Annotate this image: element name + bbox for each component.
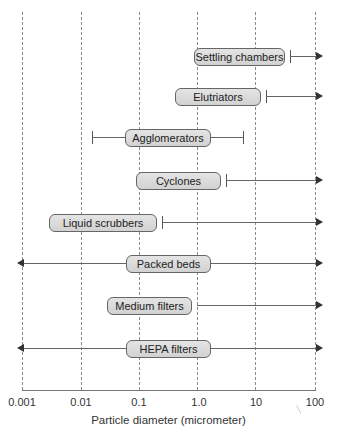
range-label-box: Liquid scrubbers bbox=[49, 214, 157, 232]
x-tick-label: 0.1 bbox=[131, 396, 146, 408]
gridline-0.001 bbox=[22, 12, 23, 390]
x-tick-label: 0.01 bbox=[70, 396, 91, 408]
gridline-0.01 bbox=[81, 12, 82, 390]
arrow-right-icon bbox=[316, 259, 323, 267]
x-axis-line bbox=[22, 390, 316, 391]
gridline-0.1 bbox=[139, 12, 140, 390]
particle-size-range-chart: Settling chambers Elutriators Agglomerat… bbox=[0, 0, 337, 435]
row-liquid-scrubbers: Liquid scrubbers bbox=[0, 214, 337, 232]
arrow-right-icon bbox=[316, 52, 323, 60]
range-max-cap bbox=[243, 131, 244, 144]
range-label-box: Medium filters bbox=[107, 297, 192, 315]
x-tick-label: 100 bbox=[306, 396, 324, 408]
range-line bbox=[226, 180, 316, 181]
arrow-right-icon bbox=[316, 301, 323, 309]
gridline-100 bbox=[315, 12, 316, 390]
x-tick-label: 0.001 bbox=[8, 396, 36, 408]
row-packed-beds: Packed beds bbox=[0, 255, 337, 273]
arrow-right-icon bbox=[316, 344, 323, 352]
row-settling-chambers: Settling chambers bbox=[0, 48, 337, 66]
range-label-box: Packed beds bbox=[126, 255, 211, 273]
range-line bbox=[197, 305, 316, 306]
range-label-box: Cyclones bbox=[136, 172, 221, 190]
x-tick-label: 10 bbox=[250, 396, 262, 408]
range-line bbox=[290, 56, 316, 57]
range-label-box: HEPA filters bbox=[126, 340, 211, 358]
gridline-1.0 bbox=[197, 12, 198, 390]
range-line bbox=[162, 222, 316, 223]
range-label-box: Settling chambers bbox=[194, 48, 285, 66]
x-tick-label: 1.0 bbox=[191, 396, 206, 408]
arrow-right-icon bbox=[316, 218, 323, 226]
row-hepa-filters: HEPA filters bbox=[0, 340, 337, 358]
row-cyclones: Cyclones bbox=[0, 172, 337, 190]
range-label-box: Elutriators bbox=[175, 88, 261, 106]
gridline-10 bbox=[255, 12, 256, 390]
range-label-box: Agglomerators bbox=[125, 129, 211, 147]
arrow-left-icon bbox=[17, 344, 24, 352]
row-agglomerators: Agglomerators bbox=[0, 129, 337, 147]
row-elutriators: Elutriators bbox=[0, 88, 337, 106]
arrow-right-icon bbox=[316, 176, 323, 184]
row-medium-filters: Medium filters bbox=[0, 297, 337, 315]
range-line bbox=[266, 96, 316, 97]
x-axis-title: Particle diameter (micrometer) bbox=[0, 414, 337, 426]
arrow-right-icon bbox=[316, 92, 323, 100]
scan-artifact bbox=[296, 403, 305, 413]
arrow-left-icon bbox=[17, 259, 24, 267]
